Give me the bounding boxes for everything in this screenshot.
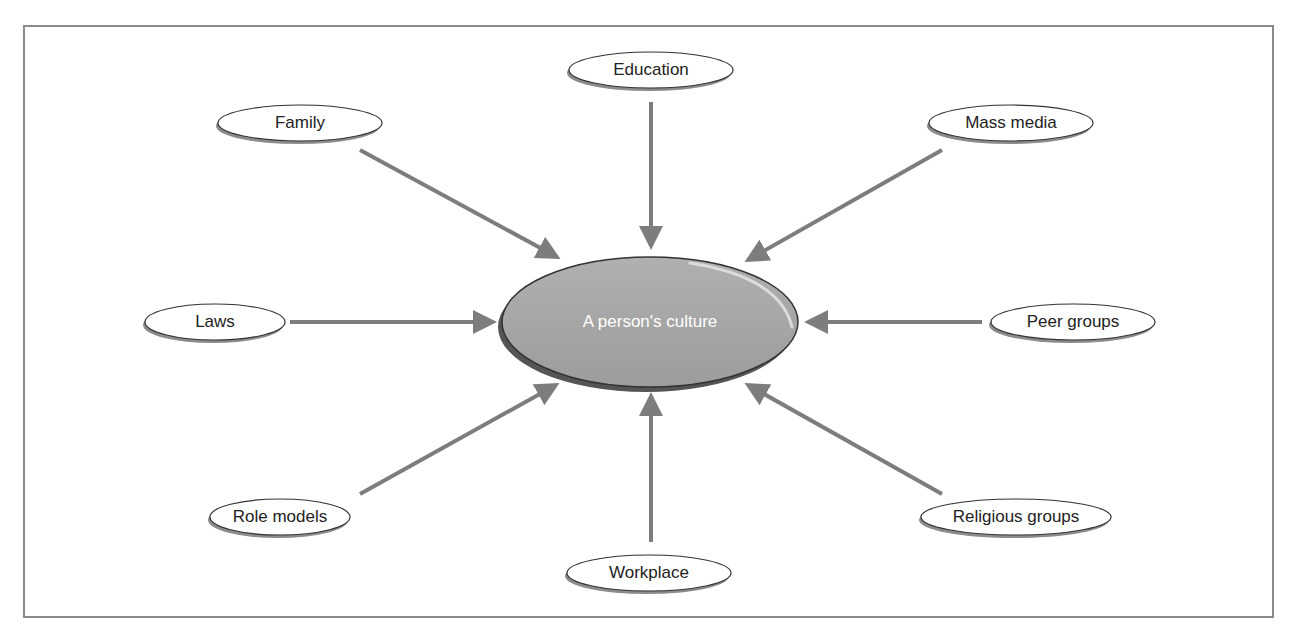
node-mass-media [927,105,1093,144]
arrow-role-models [360,385,556,494]
arrow-religious [748,385,942,494]
arrow-mass-media [748,150,942,260]
node-role-models [208,499,350,538]
node-peer-groups [989,304,1155,343]
node-workplace [565,555,731,594]
node-education [567,52,733,91]
culture-influence-diagram [0,0,1299,639]
node-family [216,105,382,144]
center-node [498,257,798,392]
arrow-family [360,150,557,257]
node-laws [143,304,285,343]
node-religious [919,499,1111,538]
